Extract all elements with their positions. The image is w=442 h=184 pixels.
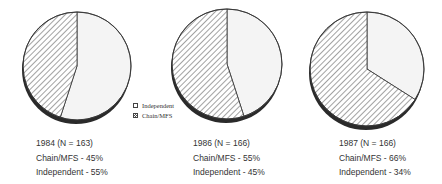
caption-independent: Independent - 45% <box>193 165 265 180</box>
legend-item-chain: Chain/MFS <box>133 110 174 120</box>
legend-label: Chain/MFS <box>142 112 172 119</box>
caption-chain: Chain/MFS - 45% <box>36 151 108 166</box>
caption-1987: 1987 (N = 166) Chain/MFS - 66% Independe… <box>339 136 411 180</box>
caption-chain: Chain/MFS - 55% <box>193 151 265 166</box>
caption-title: 1986 (N = 166) <box>193 136 265 151</box>
caption-title: 1984 (N = 163) <box>36 136 108 151</box>
legend: Independent Chain/MFS <box>133 100 174 120</box>
caption-1984: 1984 (N = 163) Chain/MFS - 45% Independe… <box>36 136 108 180</box>
caption-independent: Independent - 34% <box>339 165 411 180</box>
plain-swatch-icon <box>133 103 138 108</box>
caption-chain: Chain/MFS - 66% <box>339 151 411 166</box>
pie-1984 <box>22 12 131 124</box>
pie-1987 <box>309 12 424 130</box>
legend-label: Independent <box>142 102 174 109</box>
pie-1986 <box>171 9 282 123</box>
caption-independent: Independent - 55% <box>36 165 108 180</box>
caption-title: 1987 (N = 166) <box>339 136 411 151</box>
caption-1986: 1986 (N = 166) Chain/MFS - 55% Independe… <box>193 136 265 180</box>
legend-item-independent: Independent <box>133 100 174 110</box>
hatched-swatch-icon <box>133 113 138 118</box>
